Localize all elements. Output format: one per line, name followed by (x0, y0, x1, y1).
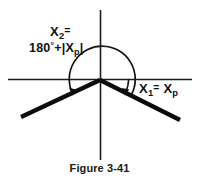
abs-bar-close: | (80, 41, 84, 55)
label-x2-expression: 180°+|Xp| (29, 41, 83, 57)
label-x2-expr-var: X (65, 41, 74, 55)
label-x1-equals: = (153, 82, 159, 93)
label-x2-degrees-value: 180 (29, 41, 50, 55)
label-x1-rhs-var: X (163, 81, 172, 96)
label-x1-var: X (139, 81, 148, 96)
label-x1-rhs-subscript: p (172, 88, 178, 98)
label-x2-equals: = (64, 25, 70, 36)
ray-left (21, 80, 100, 117)
label-x2-plus: + (54, 41, 62, 55)
figure-container: X2= 180°+|Xp| X1= Xp Figure 3-41 (0, 0, 199, 182)
figure-caption: Figure 3-41 (0, 162, 199, 174)
label-x2-var: X (50, 24, 59, 39)
label-x1: X1= Xp (139, 82, 178, 99)
